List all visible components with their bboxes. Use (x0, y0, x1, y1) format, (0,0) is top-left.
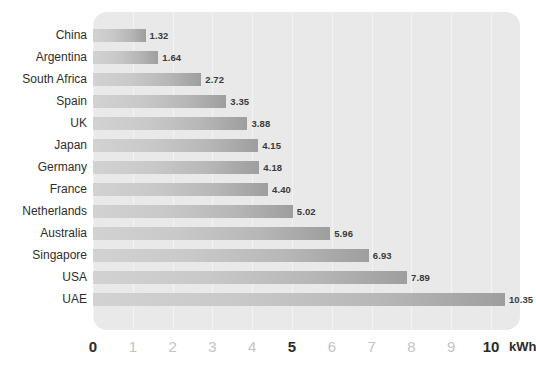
bar-value-label: 7.89 (411, 272, 430, 283)
x-tick-label-2: 2 (168, 336, 176, 358)
bar (93, 51, 158, 64)
category-label: Australia (40, 222, 87, 244)
bar-row: 4.18 (93, 156, 536, 178)
x-tick-label-6: 6 (328, 336, 336, 358)
bar-value-label: 3.35 (230, 96, 249, 107)
x-tick-label-4: 4 (248, 336, 256, 358)
bar (93, 183, 268, 196)
x-axis: kWh 012345678910 (93, 336, 536, 366)
x-tick-label-1: 1 (129, 336, 137, 358)
category-label: UK (70, 112, 87, 134)
bar-row: 5.02 (93, 200, 536, 222)
bar-chart: ChinaArgentinaSouth AfricaSpainUKJapanGe… (0, 0, 536, 372)
category-label: France (50, 178, 87, 200)
bar (93, 161, 259, 174)
bar-series: 1.321.642.723.353.884.154.184.405.025.96… (93, 12, 536, 330)
bar (93, 139, 258, 152)
bar-row: 6.93 (93, 244, 536, 266)
bar-value-label: 2.72 (205, 74, 224, 85)
x-tick-label-3: 3 (208, 336, 216, 358)
bar-row: 3.35 (93, 90, 536, 112)
category-label: Singapore (32, 244, 87, 266)
x-tick-label-10: 10 (483, 336, 500, 358)
x-tick-label-5: 5 (288, 336, 296, 358)
bar-row: 10.35 (93, 288, 536, 310)
bar-row: 5.96 (93, 222, 536, 244)
bar-row: 4.40 (93, 178, 536, 200)
bar-value-label: 5.96 (334, 228, 353, 239)
category-label: Argentina (36, 46, 87, 68)
category-label: UAE (62, 288, 87, 310)
bar-value-label: 6.93 (373, 250, 392, 261)
x-tick-label-9: 9 (447, 336, 455, 358)
bar-value-label: 4.18 (263, 162, 282, 173)
bar-value-label: 3.88 (251, 118, 270, 129)
bar-value-label: 10.35 (509, 294, 533, 305)
bar (93, 271, 407, 284)
category-label: China (56, 24, 87, 46)
bar-row: 7.89 (93, 266, 536, 288)
category-label: Germany (38, 156, 87, 178)
x-tick-label-0: 0 (89, 336, 97, 358)
x-tick-label-7: 7 (367, 336, 375, 358)
bar-row: 4.15 (93, 134, 536, 156)
category-label: Netherlands (22, 200, 87, 222)
bar-value-label: 5.02 (297, 206, 316, 217)
x-tick-label-8: 8 (407, 336, 415, 358)
bar-row: 1.64 (93, 46, 536, 68)
bar (93, 205, 293, 218)
bar-value-label: 1.64 (162, 52, 181, 63)
category-axis-labels: ChinaArgentinaSouth AfricaSpainUKJapanGe… (0, 12, 87, 330)
bar (93, 73, 201, 86)
bar-row: 2.72 (93, 68, 536, 90)
bar (93, 293, 505, 306)
category-label: Japan (54, 134, 87, 156)
bar-value-label: 1.32 (150, 30, 169, 41)
bar-value-label: 4.40 (272, 184, 291, 195)
bar-value-label: 4.15 (262, 140, 281, 151)
bar-row: 3.88 (93, 112, 536, 134)
category-label: Spain (56, 90, 87, 112)
bar (93, 227, 330, 240)
bar (93, 249, 369, 262)
category-label: South Africa (22, 68, 87, 90)
x-axis-unit-label: kWh (509, 336, 536, 358)
category-label: USA (62, 266, 87, 288)
bar (93, 95, 226, 108)
bar-row: 1.32 (93, 24, 536, 46)
bar (93, 29, 146, 42)
bar (93, 117, 247, 130)
